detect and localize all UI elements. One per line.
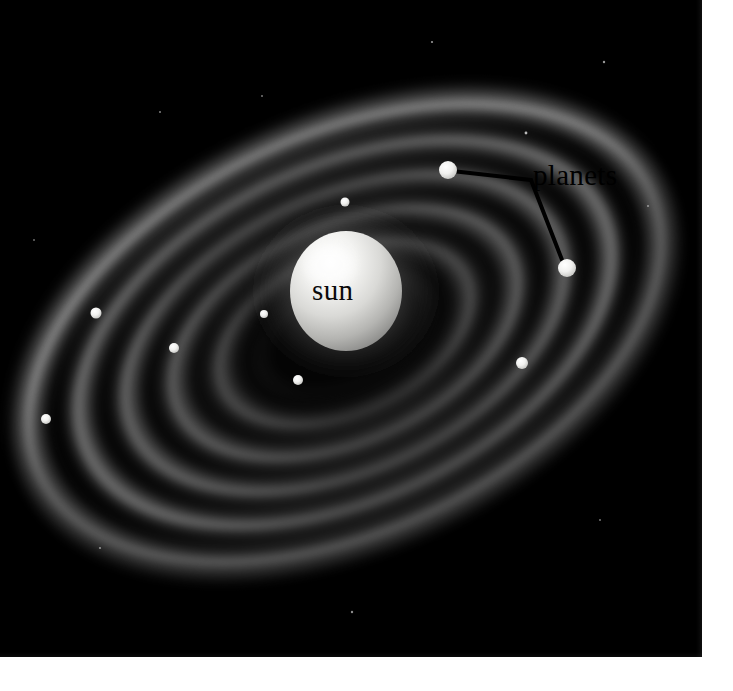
solar-system-artwork xyxy=(0,0,702,657)
illustration-page: sun planets xyxy=(0,0,733,691)
planet-right xyxy=(558,259,576,277)
planet-dot-5 xyxy=(91,308,102,319)
page-margin-bottom xyxy=(0,657,733,691)
star xyxy=(351,611,353,613)
star xyxy=(261,95,263,97)
illustration-plate: sun planets xyxy=(0,0,702,657)
star xyxy=(33,239,35,241)
star xyxy=(647,205,649,207)
sun-label: sun xyxy=(312,274,354,307)
star xyxy=(159,111,161,113)
star xyxy=(599,519,601,521)
planet-dot-3 xyxy=(293,375,303,385)
star xyxy=(525,132,528,135)
planet-dot-7 xyxy=(516,357,528,369)
star xyxy=(431,41,433,43)
star xyxy=(603,61,605,63)
planet-dot-6 xyxy=(41,414,51,424)
star xyxy=(99,547,101,549)
planets-label: planets xyxy=(533,159,617,192)
planet-dot-4 xyxy=(169,343,179,353)
planet-dot-1 xyxy=(341,198,350,207)
planet-dot-2 xyxy=(260,310,268,318)
planet-upper-right xyxy=(439,161,457,179)
page-margin-right xyxy=(702,0,733,691)
